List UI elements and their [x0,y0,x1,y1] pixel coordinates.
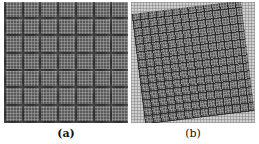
caption-a: (a) [4,127,128,140]
caption-b: (b) [131,127,255,140]
rotated-grid-pattern [132,2,255,123]
image-panel-b [131,2,255,123]
image-panel-a [4,2,128,123]
